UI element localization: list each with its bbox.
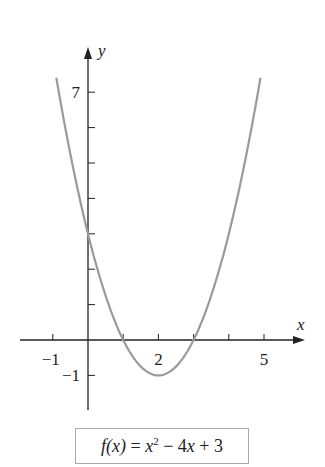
x-axis-label: x [296, 315, 305, 334]
function-plot: −1257−1xy [0, 0, 325, 425]
y-axis-arrow-icon [84, 47, 92, 59]
function-caption: f(x) = x2 − 4x + 3 [75, 428, 249, 464]
y-tick-label: −1 [62, 366, 80, 385]
axis-labels: −1257−1xy [42, 41, 305, 385]
x-axis-arrow-icon [293, 336, 305, 344]
x-tick-label: −1 [42, 350, 60, 369]
x-tick-label: 5 [260, 350, 269, 369]
parabola-curve [56, 78, 260, 376]
x-tick-label: 2 [154, 350, 163, 369]
y-axis-label: y [96, 41, 106, 60]
caption-lhs: f(x) = x2 − 4x + 3 [101, 435, 223, 457]
y-tick-label: 7 [72, 83, 81, 102]
